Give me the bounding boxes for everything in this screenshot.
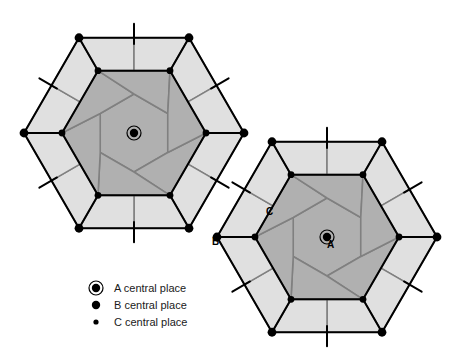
legend-label-c: C central place <box>114 316 187 328</box>
c-central-place-dot <box>288 296 295 303</box>
a-central-place-dot <box>130 129 138 137</box>
b-central-place-dot <box>75 33 84 42</box>
c-central-place-dot <box>59 130 66 137</box>
legend-label-a: A central place <box>114 282 186 294</box>
c-central-place-dot <box>396 234 403 241</box>
legend-small-dot-icon <box>93 319 98 324</box>
b-central-place-dot <box>268 328 277 337</box>
b-central-place-dot <box>268 137 277 146</box>
c-central-place-dot <box>360 296 367 303</box>
central-place-diagram: ABC A central placeB central placeC cent… <box>0 0 465 357</box>
c-central-place-dot <box>95 192 102 199</box>
annotation-label-a: A <box>327 239 334 250</box>
legend-label-b: B central place <box>114 299 187 311</box>
b-central-place-dot <box>75 224 84 233</box>
b-central-place-dot <box>20 129 29 138</box>
b-central-place-dot <box>378 328 387 337</box>
c-central-place-dot <box>95 67 102 74</box>
c-central-place-dot <box>167 192 174 199</box>
c-central-place-dot <box>203 130 210 137</box>
legend-ringed-dot-icon <box>92 284 100 292</box>
b-central-place-dot <box>185 224 194 233</box>
b-central-place-dot <box>378 137 387 146</box>
c-central-place-dot <box>167 67 174 74</box>
c-central-place-dot <box>252 234 259 241</box>
c-central-place-dot <box>288 171 295 178</box>
legend-large-dot-icon <box>92 301 100 309</box>
c-central-place-dot <box>360 171 367 178</box>
b-central-place-dot <box>185 33 194 42</box>
b-central-place-dot <box>240 129 249 138</box>
annotation-label-c: C <box>266 206 273 217</box>
b-central-place-dot <box>433 233 442 242</box>
annotation-label-b: B <box>212 236 219 247</box>
